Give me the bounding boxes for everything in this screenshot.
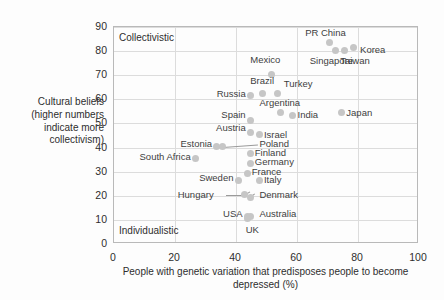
data-point[interactable]: [259, 90, 266, 97]
x-axis-tick-label: 80: [351, 252, 363, 263]
data-point-label: Spain: [221, 110, 245, 120]
data-point-label: Korea: [360, 45, 385, 55]
data-point[interactable]: [244, 170, 251, 177]
y-axis-tick-label: 0: [81, 238, 107, 249]
data-point-label: PR China: [305, 28, 346, 38]
data-point[interactable]: [247, 92, 254, 99]
label-leader-line: [223, 144, 258, 147]
data-point-label: Australia: [259, 209, 296, 219]
x-axis-title: People with genetic variation that predi…: [113, 266, 418, 292]
data-point-label: Russia: [217, 89, 246, 99]
data-point-label: USA: [223, 209, 243, 219]
data-point-label: Japan: [346, 108, 372, 118]
data-point-label: South Africa: [140, 152, 191, 162]
data-point[interactable]: [332, 47, 339, 54]
data-point[interactable]: [247, 129, 254, 136]
data-point[interactable]: [247, 117, 254, 124]
y-axis-tick-label: 30: [81, 166, 107, 177]
x-axis-tick-label: 0: [110, 252, 116, 263]
data-point-label: Hungary: [178, 190, 214, 200]
quadrant-annotation: Collectivistic: [119, 32, 174, 43]
data-point[interactable]: [256, 177, 263, 184]
data-point[interactable]: [247, 194, 254, 201]
y-axis-tick-label: 90: [81, 21, 107, 32]
data-point[interactable]: [326, 39, 333, 46]
data-point[interactable]: [274, 90, 281, 97]
y-axis-tick-label: 10: [81, 214, 107, 225]
data-point[interactable]: [350, 44, 357, 51]
data-point-label: India: [298, 110, 319, 120]
data-point-label: Taiwan: [340, 56, 370, 66]
y-axis-tick-label: 80: [81, 45, 107, 56]
data-point-label: Italy: [264, 175, 281, 185]
data-point[interactable]: [247, 150, 254, 157]
data-point-label: Mexico: [250, 55, 280, 65]
data-point-label: Sweden: [199, 173, 233, 183]
data-point[interactable]: [289, 112, 296, 119]
data-point[interactable]: [256, 131, 263, 138]
chart-root: 0102030405060708090020406080100Collectiv…: [0, 0, 444, 300]
y-axis-tick-label: 20: [81, 190, 107, 201]
data-point-label: Argentina: [259, 98, 300, 108]
chart-overlay: 0102030405060708090020406080100Collectiv…: [0, 0, 444, 300]
data-point-label: Brazil: [250, 76, 274, 86]
y-axis-title: Cultural beliefs (higher numbers indicat…: [4, 96, 104, 147]
x-axis-tick-label: 20: [168, 252, 180, 263]
data-point-label: UK: [246, 225, 259, 235]
data-point[interactable]: [341, 47, 348, 54]
data-point[interactable]: [244, 215, 251, 222]
data-point[interactable]: [219, 143, 226, 150]
x-axis-tick-label: 40: [229, 252, 241, 263]
data-point-label: Austria: [216, 123, 246, 133]
x-axis-tick-label: 60: [290, 252, 302, 263]
data-point-label: Turkey: [284, 79, 313, 89]
y-axis-tick-label: 70: [81, 69, 107, 80]
data-point[interactable]: [192, 155, 199, 162]
data-point-label: Estonia: [180, 139, 212, 149]
data-point[interactable]: [277, 109, 284, 116]
data-point[interactable]: [338, 109, 345, 116]
quadrant-annotation: Individualistic: [119, 225, 178, 236]
data-point[interactable]: [235, 177, 242, 184]
x-axis-tick-label: 100: [409, 252, 427, 263]
data-point-label: Denmark: [259, 190, 298, 200]
